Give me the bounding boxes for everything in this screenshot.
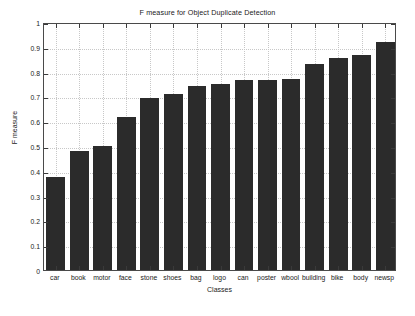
- y-axis-tick-label: 0.3: [0, 193, 40, 200]
- bar: [352, 55, 371, 270]
- x-axis-tick-label: wbool: [281, 274, 299, 281]
- bar: [376, 42, 395, 270]
- x-axis-tick: [197, 24, 198, 28]
- bar: [329, 58, 348, 270]
- y-axis-tick-label: 1: [0, 20, 40, 27]
- x-axis-tick: [362, 266, 363, 270]
- y-axis-tick: [44, 173, 48, 174]
- y-axis-tick: [44, 198, 48, 199]
- x-axis-tick: [291, 266, 292, 270]
- x-axis-tick: [244, 266, 245, 270]
- x-axis-tick: [150, 266, 151, 270]
- x-axis-tick-label: shoes: [163, 274, 181, 281]
- y-axis-tick: [44, 148, 48, 149]
- y-axis-tick: [391, 49, 395, 50]
- bar: [188, 86, 207, 270]
- x-axis-tick: [126, 266, 127, 270]
- chart-figure: F measure for Object Duplicate Detection…: [0, 0, 415, 316]
- x-axis-tick: [221, 24, 222, 28]
- x-axis-tick: [338, 24, 339, 28]
- x-axis-tick: [197, 266, 198, 270]
- x-axis-tick: [56, 266, 57, 270]
- bar: [164, 94, 183, 270]
- bar: [93, 146, 112, 270]
- y-axis-tick: [391, 222, 395, 223]
- y-axis-tick: [44, 74, 48, 75]
- y-axis-tick-labels: 00.10.20.30.40.50.60.70.80.91: [0, 23, 40, 271]
- x-axis-tick: [150, 24, 151, 28]
- x-axis-tick-label: face: [119, 274, 132, 281]
- x-axis-label: Classes: [43, 286, 396, 293]
- y-axis-tick: [44, 247, 48, 248]
- x-axis-tick: [385, 24, 386, 28]
- x-axis-tick: [362, 24, 363, 28]
- x-axis-tick: [79, 24, 80, 28]
- x-axis-tick-label: building: [302, 274, 325, 281]
- bar: [282, 79, 301, 270]
- x-axis-tick: [291, 24, 292, 28]
- x-axis-tick: [173, 24, 174, 28]
- y-axis-tick-label: 0.2: [0, 218, 40, 225]
- x-axis-tick: [315, 266, 316, 270]
- bar: [305, 64, 324, 270]
- y-axis-tick-label: 0.1: [0, 243, 40, 250]
- x-axis-tick: [385, 266, 386, 270]
- x-axis-tick-label: newsp: [374, 274, 394, 281]
- x-axis-tick-label: body: [353, 274, 368, 281]
- y-axis-tick-label: 0: [0, 268, 40, 275]
- bar: [258, 80, 277, 270]
- bars-layer: [44, 24, 395, 270]
- x-axis-tick: [268, 24, 269, 28]
- y-axis-tick: [391, 198, 395, 199]
- y-axis-tick: [391, 24, 395, 25]
- y-axis-tick: [391, 98, 395, 99]
- x-axis-tick: [103, 24, 104, 28]
- plot-area: [43, 23, 396, 271]
- y-axis-tick: [391, 74, 395, 75]
- x-axis-tick: [103, 266, 104, 270]
- x-axis-tick-label: bag: [190, 274, 201, 281]
- bar: [140, 98, 159, 270]
- bar: [235, 80, 254, 270]
- y-axis-tick-label: 0.4: [0, 168, 40, 175]
- bar: [211, 84, 230, 270]
- y-axis-tick: [44, 123, 48, 124]
- y-axis-tick-label: 0.7: [0, 94, 40, 101]
- y-axis-tick: [44, 49, 48, 50]
- bar: [70, 151, 89, 270]
- x-axis-tick-label: logo: [213, 274, 226, 281]
- y-axis-tick-label: 0.8: [0, 69, 40, 76]
- y-axis-tick: [391, 148, 395, 149]
- y-axis-tick: [44, 24, 48, 25]
- x-axis-tick-label: bike: [331, 274, 343, 281]
- x-axis-tick: [221, 266, 222, 270]
- y-axis-tick: [391, 247, 395, 248]
- x-axis-tick: [268, 266, 269, 270]
- x-axis-tick-label: motor: [93, 274, 110, 281]
- bar: [46, 177, 65, 270]
- bar: [117, 117, 136, 270]
- x-axis-tick: [244, 24, 245, 28]
- x-axis-tick: [56, 24, 57, 28]
- y-axis-tick: [391, 123, 395, 124]
- y-axis-tick-label: 0.9: [0, 44, 40, 51]
- x-axis-tick: [79, 266, 80, 270]
- x-axis-tick-label: book: [71, 274, 86, 281]
- x-axis-tick-label: can: [238, 274, 249, 281]
- x-axis-tick: [173, 266, 174, 270]
- x-axis-tick: [338, 266, 339, 270]
- x-axis-tick-label: car: [50, 274, 59, 281]
- x-axis-tick-labels: carbookmotorfacestoneshoesbaglogocanpost…: [43, 274, 396, 286]
- y-axis-tick-label: 0.6: [0, 119, 40, 126]
- x-axis-tick: [315, 24, 316, 28]
- y-axis-tick: [44, 98, 48, 99]
- x-axis-tick: [126, 24, 127, 28]
- y-axis-tick-label: 0.5: [0, 144, 40, 151]
- x-axis-tick-label: stone: [141, 274, 158, 281]
- y-axis-tick: [44, 222, 48, 223]
- chart-title: F measure for Object Duplicate Detection: [0, 8, 415, 17]
- y-axis-tick: [391, 173, 395, 174]
- x-axis-tick-label: poster: [257, 274, 276, 281]
